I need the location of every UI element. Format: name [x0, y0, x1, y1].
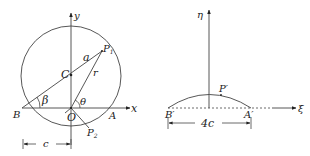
p-prime-dot	[220, 94, 222, 96]
eta-axis-label: η	[197, 9, 203, 20]
point-a-label: A	[108, 110, 116, 121]
left-figure: y x C O B A P1 P2 a r β θ c	[12, 10, 138, 149]
dimension-c-label: c	[43, 138, 49, 149]
x-axis-label: x	[131, 102, 138, 115]
point-p2-label: P2	[86, 127, 98, 139]
dimension-4c-label: 4c	[200, 117, 214, 130]
mapped-arc	[168, 95, 251, 109]
point-a-prime-label: A′	[243, 109, 254, 120]
theta-label: θ	[80, 96, 86, 107]
xi-axis-label: ξ	[298, 103, 304, 114]
beta-arc	[37, 97, 40, 108]
beta-label: β	[41, 94, 48, 107]
right-figure: η ξ B′ A′ P′ 4c	[164, 9, 304, 130]
center-label: C	[61, 68, 70, 81]
radius-a-label: a	[83, 51, 90, 64]
diagram-canvas: y x C O B A P1 P2 a r β θ c η ξ B′ A′ P′	[0, 0, 310, 156]
point-p1-label: P1	[102, 43, 114, 55]
dimension-4c: 4c	[168, 117, 251, 130]
origin-label: O	[67, 111, 76, 124]
point-p-prime-label: P′	[218, 83, 229, 94]
y-axis-label: y	[73, 10, 80, 21]
origin-dot	[70, 107, 72, 109]
center-dot	[70, 74, 73, 77]
segment-r-label: r	[93, 67, 99, 78]
dimension-c: c	[23, 138, 71, 149]
point-b-label: B	[12, 109, 20, 120]
point-b-prime-label: B′	[164, 109, 175, 120]
